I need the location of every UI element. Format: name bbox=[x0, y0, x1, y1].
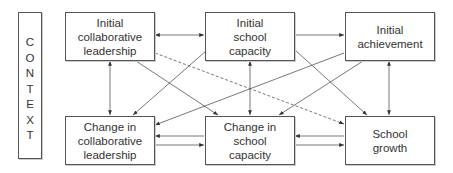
node-label: Change in collaborative leadership bbox=[78, 120, 143, 162]
node-change-school-capacity: Change in school capacity bbox=[205, 116, 295, 165]
context-letter: N bbox=[26, 66, 34, 82]
node-label: Change in school capacity bbox=[224, 120, 276, 162]
node-change-collaborative-leadership: Change in collaborative leadership bbox=[65, 116, 155, 165]
node-label: Initial school capacity bbox=[229, 16, 271, 58]
arrow-icl-csc bbox=[136, 61, 218, 115]
node-initial-school-capacity: Initial school capacity bbox=[205, 12, 295, 61]
context-letter: X bbox=[26, 113, 34, 129]
context-box: C O N T E X T bbox=[18, 12, 42, 159]
arrow-ia-csc bbox=[279, 61, 363, 115]
context-letter: T bbox=[26, 128, 33, 144]
node-school-growth: School growth bbox=[345, 116, 435, 165]
context-letter: O bbox=[26, 51, 35, 67]
context-letter: T bbox=[26, 82, 33, 98]
node-label: Initial collaborative leadership bbox=[78, 16, 143, 58]
node-label: School growth bbox=[372, 127, 407, 155]
node-initial-collaborative-leadership: Initial collaborative leadership bbox=[65, 12, 155, 61]
context-letter: C bbox=[26, 35, 34, 51]
node-initial-achievement: Initial achievement bbox=[345, 12, 435, 61]
node-label: Initial achievement bbox=[357, 23, 422, 51]
context-letter: E bbox=[26, 97, 34, 113]
